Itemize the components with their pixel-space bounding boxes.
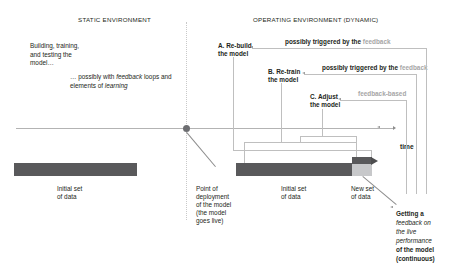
axis-return-tick-icon (377, 126, 380, 128)
loop-a-arrowhead-icon (250, 46, 253, 48)
operating-environment-title: OPERATING ENVIRONMENT (DYNAMIC) (253, 16, 378, 23)
feedback-note-prefix: … possibly with (70, 73, 116, 80)
feedback-loops-note: … possibly with feedback loops and eleme… (70, 73, 180, 90)
new-data-caption-line2: of data (351, 193, 371, 202)
step-b-label-line2: the model (268, 76, 298, 84)
loop-a-top-line (252, 48, 426, 49)
deployment-guide-line (186, 132, 187, 220)
step-a-bracket-stem (233, 128, 234, 150)
step-a-stem (233, 57, 234, 128)
step-c-bracket-stem (322, 128, 323, 136)
step-b-bracket-stem (281, 128, 282, 142)
initial-data-bar-static (14, 163, 137, 176)
environment-divider (186, 22, 187, 128)
feedback-annotation-line4: performance (396, 237, 432, 246)
feedback-annotation-line3: the live (396, 228, 416, 237)
trigger-b-feedback-word: feedback (400, 64, 428, 71)
initial-data-caption-static-line2: of data (57, 193, 77, 202)
step-c-label-line2: the model (310, 101, 340, 109)
feedback-annotation-line2: feedback on (396, 219, 431, 228)
initial-data-caption-operating-line2: of data (281, 193, 301, 202)
trigger-a-bold: possibly triggered by the (285, 38, 363, 45)
initial-data-bar-operating (236, 163, 352, 176)
new-data-arrow-icon (371, 157, 378, 165)
loop-b-right-vertical (416, 74, 417, 194)
step-a-bracket-span (233, 150, 372, 151)
trigger-a-feedback-word: feedback (363, 38, 391, 45)
building-training-note: Building, training, and testing the mode… (30, 42, 90, 68)
new-data-bar-cap (352, 157, 372, 164)
loop-c-arrowhead-icon (338, 98, 341, 100)
step-b-bracket-left-leg (244, 142, 245, 163)
loop-b-top-line (304, 74, 416, 75)
new-data-bar (352, 163, 372, 176)
step-c-bracket-left-leg (300, 136, 301, 143)
trigger-text-b: possibly triggered by the feedback (322, 64, 428, 71)
feedback-annotation-line5: of the model (396, 246, 434, 255)
loop-c-right-vertical (406, 100, 407, 194)
diagram-canvas: STATIC ENVIRONMENT OPERATING ENVIRONMENT… (0, 0, 450, 274)
feedback-note-emphasis-1: feedback (116, 73, 142, 80)
deployment-leader-line (186, 132, 216, 167)
trigger-c-feedback-based: feedback-based (358, 90, 406, 97)
loop-c-top-line (340, 100, 406, 101)
loop-b-arrowhead-icon (302, 72, 305, 74)
step-c-stem (322, 109, 323, 128)
timeline-arrow-icon (393, 126, 396, 130)
trigger-text-c: feedback-based (358, 90, 406, 97)
static-environment-title: STATIC ENVIRONMENT (78, 16, 151, 23)
trigger-text-a: possibly triggered by the feedback (285, 38, 391, 45)
feedback-annotation-line6: (continuous) (396, 255, 435, 264)
step-c-bracket-right-leg (356, 136, 357, 143)
trigger-b-bold: possibly triggered by the (322, 64, 400, 71)
loop-a-right-vertical (426, 48, 427, 194)
feedback-note-emphasis-2: learning (105, 82, 128, 89)
feedback-annotation-tick-icon (390, 206, 393, 208)
step-b-stem (281, 83, 282, 128)
timeline-axis (16, 128, 394, 129)
feedback-annotation-line1: Getting a (396, 210, 424, 219)
step-c-bracket-span (300, 136, 357, 137)
deployment-annotation-line5: goes live) (196, 217, 223, 226)
